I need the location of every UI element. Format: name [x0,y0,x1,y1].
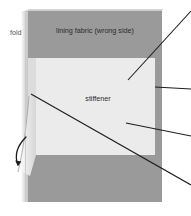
lining-fabric-label: lining fabric (wrong side) [56,26,134,35]
diagram-canvas: fold lining fabric (wrong side) stiffene… [0,0,191,216]
fold-label: fold [10,28,22,37]
stiffener-label: stiffener [85,94,111,103]
sewing-diagram: fold lining fabric (wrong side) stiffene… [0,0,191,216]
